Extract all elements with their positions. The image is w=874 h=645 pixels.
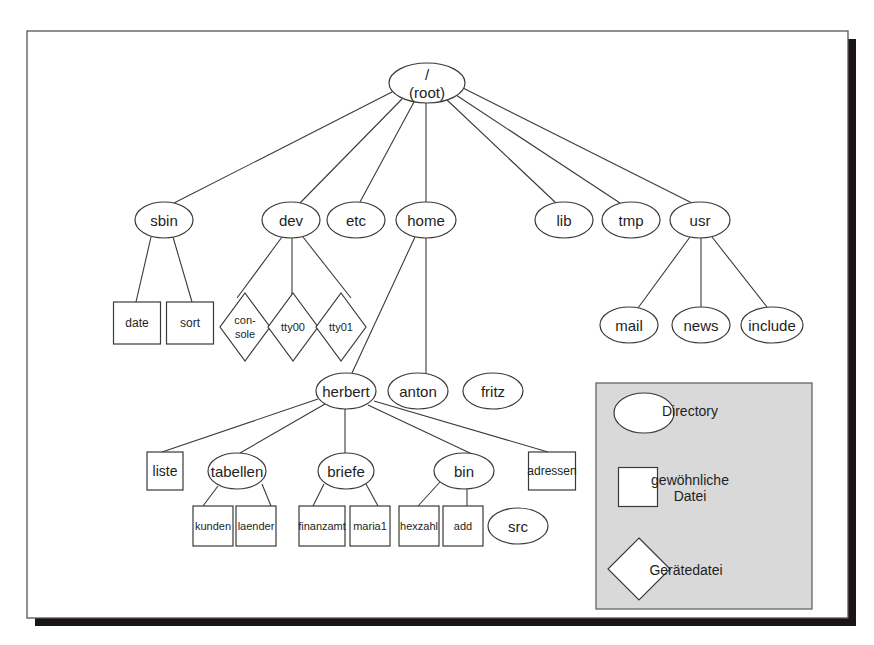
node-label: sort — [180, 316, 201, 330]
node-label: adressen — [527, 464, 576, 478]
node-sort[interactable]: sort — [167, 302, 214, 344]
filesystem-diagram: /(root)sbindevetchomelibtmpusrdatesortco… — [0, 0, 874, 645]
node-label: add — [454, 520, 472, 532]
node-maria1[interactable]: maria1 — [350, 506, 390, 546]
node-laender[interactable]: laender — [236, 506, 276, 546]
node-label: src — [508, 518, 528, 535]
node-label: include — [748, 317, 796, 334]
node-label: maria1 — [353, 520, 387, 532]
node-label-line2: sole — [235, 328, 255, 340]
legend: DirectorygewöhnlicheDateiGerätedatei — [596, 383, 812, 609]
node-label: briefe — [327, 463, 365, 480]
node-label: fritz — [481, 383, 505, 400]
node-home[interactable]: home — [396, 202, 456, 238]
node-include[interactable]: include — [741, 307, 803, 343]
legend-label: gewöhnliche — [651, 472, 729, 488]
node-tabellen[interactable]: tabellen — [208, 453, 266, 489]
node-usr[interactable]: usr — [670, 202, 730, 238]
node-liste[interactable]: liste — [147, 452, 183, 490]
node-label: etc — [346, 212, 367, 229]
node-dev[interactable]: dev — [262, 202, 320, 238]
node-root[interactable]: /(root) — [389, 63, 465, 103]
node-label: mail — [615, 317, 643, 334]
node-finanzamt[interactable]: finanzamt — [298, 506, 346, 546]
diagram-canvas: /(root)sbindevetchomelibtmpusrdatesortco… — [0, 0, 874, 645]
legend-label: Directory — [662, 403, 718, 419]
node-label: dev — [279, 212, 304, 229]
node-tmp[interactable]: tmp — [602, 202, 660, 238]
node-label: tty00 — [281, 321, 305, 333]
node-sbin[interactable]: sbin — [135, 202, 193, 238]
node-fritz[interactable]: fritz — [463, 373, 523, 409]
node-label: usr — [690, 212, 711, 229]
node-src[interactable]: src — [488, 508, 548, 544]
node-label: home — [407, 212, 445, 229]
legend-label-line2: Datei — [674, 488, 707, 504]
node-herbert[interactable]: herbert — [316, 373, 376, 409]
node-label: tabellen — [211, 463, 264, 480]
node-label: tmp — [618, 212, 643, 229]
node-mail[interactable]: mail — [600, 307, 658, 343]
node-bin[interactable]: bin — [434, 453, 494, 489]
node-add[interactable]: add — [443, 506, 483, 546]
node-kunden[interactable]: kunden — [193, 506, 233, 546]
node-briefe[interactable]: briefe — [318, 453, 374, 489]
node-label: finanzamt — [298, 520, 346, 532]
node-label: bin — [454, 463, 474, 480]
node-hexzahl[interactable]: hexzahl — [399, 506, 439, 546]
node-label: tty01 — [329, 321, 353, 333]
node-label: herbert — [322, 383, 370, 400]
node-label: anton — [399, 383, 437, 400]
node-label: lib — [556, 212, 571, 229]
node-label: laender — [238, 520, 275, 532]
node-label-line2: (root) — [409, 84, 445, 101]
node-date[interactable]: date — [114, 302, 161, 344]
node-anton[interactable]: anton — [388, 373, 448, 409]
node-etc[interactable]: etc — [327, 202, 385, 238]
node-label: sbin — [150, 212, 178, 229]
node-label: hexzahl — [400, 520, 438, 532]
node-lib[interactable]: lib — [535, 202, 593, 238]
node-news[interactable]: news — [672, 307, 730, 343]
legend-label: Gerätedatei — [649, 562, 722, 578]
node-label: date — [125, 316, 149, 330]
node-label: con- — [234, 314, 256, 326]
node-label: news — [683, 317, 718, 334]
node-adressen[interactable]: adressen — [527, 452, 576, 490]
node-label: liste — [153, 463, 178, 479]
node-label: kunden — [195, 520, 231, 532]
